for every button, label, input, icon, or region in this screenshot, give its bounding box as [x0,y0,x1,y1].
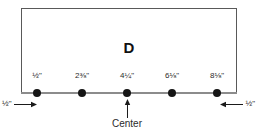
panel-rectangle: D [21,8,237,93]
hole-dimension-label: 6⅛" [165,72,179,80]
left-margin-callout: ½" [2,100,38,108]
part-label-d: D [22,39,236,56]
diagram-canvas: D ½" 2⅜" 4¼" 6⅛" 8⅛" ½" ½" Center [0,0,257,135]
center-label: Center [112,119,142,129]
arrow-left-icon [219,101,243,108]
hole-dot [168,89,176,97]
hole-dimension-label: 4¼" [120,72,134,80]
hole-dot [33,89,41,97]
right-margin-value: ½" [245,100,255,108]
arrow-right-icon [14,101,38,108]
hole-dimension-label: 8⅛" [210,72,224,80]
left-margin-value: ½" [2,100,12,108]
hole-dot [213,89,221,97]
center-callout: Center [112,99,142,129]
arrow-up-icon [122,99,131,118]
hole-dimension-label: ½" [32,72,42,80]
hole-dimension-label: 2⅜" [75,72,89,80]
hole-dot [78,89,86,97]
hole-dot-center [123,89,131,97]
right-margin-callout: ½" [219,100,255,108]
